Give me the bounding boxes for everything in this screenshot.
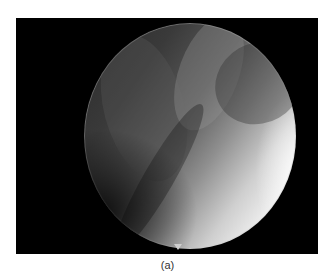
- endoscopic-image: [84, 23, 296, 249]
- panel-label: (a): [0, 259, 335, 271]
- shadow-overlay: [84, 23, 296, 249]
- scope-notch-marker: [174, 244, 182, 250]
